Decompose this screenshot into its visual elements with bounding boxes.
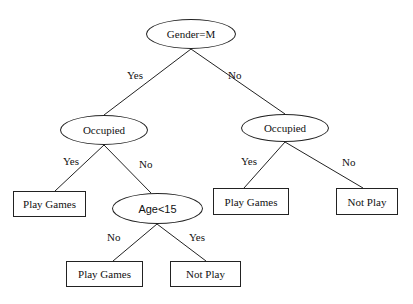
root-node-gender: Gender=M [146, 19, 236, 49]
edge-label-age-yes: Yes [189, 231, 205, 243]
node-occupied-left: Occupied [60, 115, 148, 145]
edge-label-root-yes: Yes [127, 69, 143, 81]
node-label: Age<15 [138, 203, 176, 215]
edge-root-left [104, 49, 191, 115]
edge-root-right [191, 49, 285, 114]
edge-label-root-no: No [228, 69, 241, 81]
edge-label-left-no: No [139, 158, 152, 170]
node-label: Occupied [83, 124, 125, 136]
node-label: Play Games [225, 196, 278, 208]
node-label: Occupied [264, 122, 306, 134]
node-label: Not Play [186, 268, 225, 280]
node-age: Age<15 [112, 193, 203, 224]
node-label: Play Games [23, 198, 76, 210]
edge-left-play [55, 145, 104, 191]
edge-label-left-yes: Yes [63, 155, 79, 167]
node-label: Gender=M [167, 28, 215, 40]
edge-label-right-yes: Yes [241, 155, 257, 167]
leaf-play-games-left: Play Games [13, 191, 86, 217]
leaf-play-games-age: Play Games [66, 261, 143, 287]
leaf-not-play-right: Not Play [336, 188, 398, 215]
leaf-not-play-age: Not Play [170, 261, 241, 287]
leaf-play-games-right: Play Games [213, 188, 289, 215]
edge-label-right-no: No [342, 156, 355, 168]
node-label: Play Games [78, 268, 131, 280]
node-label: Not Play [348, 196, 387, 208]
edge-label-age-no: No [107, 231, 120, 243]
node-occupied-right: Occupied [241, 114, 329, 142]
